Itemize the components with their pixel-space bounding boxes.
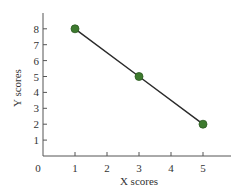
y-axis-title: Y scores [11,69,23,107]
data-point [199,120,207,128]
y-tick-label: 7 [34,39,40,51]
data-point [135,73,143,81]
y-tick-label: 1 [34,134,40,146]
origin-label: 0 [35,162,41,174]
ticks: 1234512345678 [34,23,207,174]
data-series [71,25,207,128]
x-tick-label: 1 [72,162,78,174]
line-chart: 1234512345678 0 X scores Y scores [0,0,243,191]
axes [43,13,231,156]
x-tick-label: 4 [168,162,174,174]
y-tick-label: 5 [34,71,40,83]
x-tick-label: 3 [136,162,142,174]
y-tick-label: 8 [34,23,40,35]
y-tick-label: 3 [34,102,40,114]
y-tick-label: 2 [34,118,40,130]
y-tick-label: 4 [34,86,40,98]
y-tick-label: 6 [34,55,40,67]
x-axis-title: X scores [120,175,158,187]
data-point [71,25,79,33]
x-tick-label: 5 [200,162,206,174]
x-tick-label: 2 [104,162,110,174]
